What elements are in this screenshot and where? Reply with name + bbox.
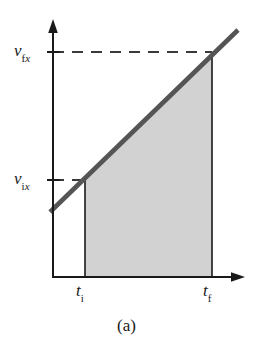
- y-axis-label-vfx-variable: v: [14, 41, 22, 60]
- y-axis-label-vix: vix: [14, 170, 30, 190]
- y-axis-label-vfx-sub-x: x: [25, 52, 30, 64]
- y-axis-arrowhead-icon: [48, 19, 58, 33]
- velocity-time-graph: [0, 0, 253, 352]
- x-axis-label-ti-sub: i: [81, 292, 84, 304]
- y-axis-label-vfx: vfx: [14, 42, 30, 62]
- x-axis-label-tf: tf: [203, 282, 212, 302]
- figure-container: vfx vix ti tf (a): [0, 0, 253, 352]
- x-axis-label-ti: ti: [76, 282, 84, 302]
- x-axis-label-tf-sub: f: [208, 292, 212, 304]
- y-axis-label-vix-variable: v: [14, 169, 22, 188]
- shaded-area-polygon: [85, 52, 212, 277]
- figure-caption: (a): [0, 316, 253, 336]
- x-axis-arrowhead-icon: [231, 272, 245, 282]
- y-axis-label-vix-sub-x: x: [25, 180, 30, 192]
